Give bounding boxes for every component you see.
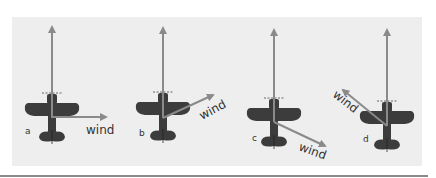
panel-label: a: [25, 126, 31, 136]
panel-a: a wind: [25, 27, 115, 144]
panel-label: c: [252, 133, 257, 143]
panel-c: c wind: [247, 30, 329, 163]
airplane-wind-diagram: a wind b wind c wind d wind: [0, 0, 436, 178]
panel-label: d: [363, 134, 369, 144]
panel-label: b: [139, 128, 145, 138]
panel-d: d wind: [330, 30, 414, 152]
wind-label: wind: [86, 123, 114, 137]
wind-label: wind: [297, 140, 328, 163]
wind-label: wind: [330, 87, 361, 116]
panel-b: b wind: [136, 28, 229, 143]
